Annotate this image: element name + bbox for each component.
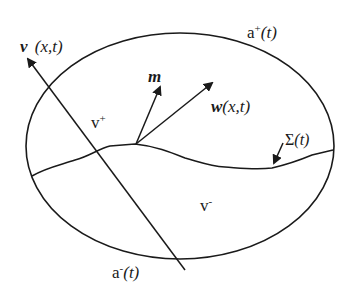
normal-m-label: m: [148, 67, 161, 86]
normal-m-arrow: [136, 87, 160, 144]
interface-sigma-label: Σ(t): [285, 131, 309, 149]
boundary-plus-label: a+(t): [247, 22, 277, 42]
interface-curve: [32, 144, 333, 176]
velocity-v-arrow: [28, 59, 185, 270]
boundary-minus-label: a-(t): [112, 262, 140, 282]
velocity-v-label: v (x,t): [20, 37, 63, 56]
interface-pointer-arrow: [274, 143, 283, 163]
region-minus-label: v-: [200, 195, 213, 215]
control-volume-diagram: v (x,t) a+(t) m w(x,t) v+ Σ(t) v- a-(t): [0, 0, 345, 292]
region-plus-label: v+: [91, 112, 106, 132]
interface-velocity-w-arrow: [136, 83, 212, 144]
interface-velocity-w-label: w(x,t): [211, 97, 251, 116]
